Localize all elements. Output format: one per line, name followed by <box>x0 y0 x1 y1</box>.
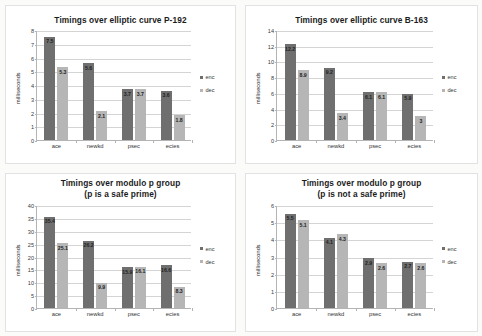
plot-area: 01234565.55.1ace4.14.3newkd2.92.6psec2.7… <box>276 206 433 309</box>
x-axis-tick-mark <box>356 308 357 311</box>
y-axis-tick-mark <box>275 309 277 310</box>
legend-swatch-enc <box>442 76 445 79</box>
bar-enc: 2.9 <box>363 258 374 308</box>
y-axis-tick-label: 25 <box>28 242 34 248</box>
bar-value-label: 2.7 <box>404 263 411 269</box>
bar-value-label: 2.6 <box>417 265 424 271</box>
legend-item-enc[interactable]: enc <box>200 246 215 252</box>
bar-value-label: 5.3 <box>59 69 66 75</box>
x-axis-tick-label: ecies <box>166 311 180 317</box>
x-axis-tick-label: ace <box>52 143 61 149</box>
bar-group: 35.425.1ace <box>37 206 76 308</box>
chart-title-line: Timings over modulo p group <box>246 178 477 189</box>
x-axis-tick-label: psec <box>128 143 140 149</box>
bar-value-label: 5.5 <box>287 215 294 221</box>
y-axis-tick-label: 0 <box>31 306 34 312</box>
bar-value-label: 25.1 <box>58 245 68 251</box>
bar-dec: 2.6 <box>415 263 426 308</box>
x-axis-tick-mark <box>76 140 77 143</box>
bar-dec: 16.1 <box>135 267 146 308</box>
bar-dec: 3 <box>415 116 426 140</box>
bar-dec: 8.3 <box>174 287 185 308</box>
bar-value-label: 6.1 <box>378 94 385 100</box>
legend-item-dec[interactable]: dec <box>200 259 215 265</box>
bar-group: 5.62.1newkd <box>76 31 115 140</box>
chart-title: Timings over elliptic curve P-192 <box>6 15 235 26</box>
y-axis-tick-label: 4 <box>271 107 274 113</box>
chart-legend: encdec <box>442 74 457 100</box>
bar-dec: 3.7 <box>135 89 146 140</box>
x-axis-tick-mark <box>153 140 154 143</box>
bar-group: 9.23.4newkd <box>316 31 355 140</box>
bar-dec: 6.1 <box>376 92 387 140</box>
bar-enc: 16.6 <box>161 265 172 308</box>
legend-label: enc <box>448 74 457 80</box>
bar-dec: 2.1 <box>96 111 107 140</box>
bar-dec: 8.9 <box>298 70 309 140</box>
legend-item-enc[interactable]: enc <box>442 246 457 252</box>
y-axis-tick-label: 8 <box>31 28 34 34</box>
legend-swatch-dec <box>200 260 203 263</box>
legend-item-dec[interactable]: dec <box>442 259 457 265</box>
bar-enc: 3.6 <box>161 91 172 141</box>
x-axis-tick-mark <box>192 308 193 311</box>
x-axis-tick-mark <box>434 308 435 311</box>
y-axis-tick-label: 40 <box>28 203 34 209</box>
x-axis-tick-mark <box>395 140 396 143</box>
x-axis-tick-label: newkd <box>87 311 104 317</box>
x-axis-tick-mark <box>153 308 154 311</box>
x-axis-tick-mark <box>192 140 193 143</box>
bar-enc: 7.5 <box>44 37 55 140</box>
legend-label: dec <box>206 259 215 265</box>
bar-value-label: 2.9 <box>365 260 372 266</box>
y-axis-tick-label: 5 <box>31 69 34 75</box>
y-axis-tick-label: 1 <box>271 289 274 295</box>
x-axis-tick-label: newkd <box>327 143 344 149</box>
y-axis-tick-label: 20 <box>28 255 34 261</box>
bar-value-label: 26.2 <box>84 242 94 248</box>
y-axis-label: milliseconds <box>255 72 261 104</box>
bar-value-label: 15.9 <box>122 269 132 275</box>
y-axis-tick-label: 5 <box>271 220 274 226</box>
chart-title: Timings over modulo p group(p is not a s… <box>246 178 477 199</box>
legend-item-enc[interactable]: enc <box>442 74 457 80</box>
bar-value-label: 8.3 <box>176 288 183 294</box>
x-axis-tick-mark <box>356 140 357 143</box>
chart-title: Timings over modulo p group(p is a safe … <box>6 178 235 199</box>
bar-value-label: 4.1 <box>326 239 333 245</box>
y-axis-tick-label: 15 <box>28 267 34 273</box>
bar-value-label: 5.1 <box>300 222 307 228</box>
bar-group: 4.14.3newkd <box>316 206 355 308</box>
y-axis-tick-label: 35 <box>28 216 34 222</box>
bar-value-label: 5.9 <box>404 95 411 101</box>
x-axis-tick-mark <box>76 308 77 311</box>
legend-item-dec[interactable]: dec <box>200 87 215 93</box>
legend-item-dec[interactable]: dec <box>442 87 457 93</box>
y-axis-tick-label: 4 <box>31 83 34 89</box>
y-axis-tick-label: 12 <box>268 44 274 50</box>
chart-legend: encdec <box>442 246 457 272</box>
x-axis-tick-mark <box>395 308 396 311</box>
y-axis-tick-mark <box>275 141 277 142</box>
legend-label: enc <box>448 246 457 252</box>
y-axis-tick-label: 2 <box>271 272 274 278</box>
legend-item-enc[interactable]: enc <box>200 74 215 80</box>
bar-value-label: 16.1 <box>135 268 145 274</box>
bar-enc: 35.4 <box>44 217 55 308</box>
bar-value-label: 8.9 <box>300 72 307 78</box>
bar-group: 16.68.3ecies <box>153 206 192 308</box>
y-axis-tick-mark <box>35 309 37 310</box>
y-axis-tick-label: 8 <box>271 75 274 81</box>
bar-value-label: 4.3 <box>339 236 346 242</box>
bar-group: 5.55.1ace <box>277 206 316 308</box>
y-axis-tick-label: 6 <box>271 203 274 209</box>
y-axis-tick-label: 6 <box>271 91 274 97</box>
bar-enc: 4.1 <box>324 238 335 308</box>
bar-value-label: 5.6 <box>85 65 92 71</box>
y-axis-tick-label: 0 <box>271 306 274 312</box>
bar-dec: 4.3 <box>337 234 348 308</box>
plot-area: 0123456787.55.3ace5.62.1newkd3.73.7psec3… <box>36 31 191 141</box>
y-axis-tick-label: 3 <box>271 255 274 261</box>
y-axis-label: milliseconds <box>15 72 21 104</box>
bar-dec: 1.8 <box>174 115 185 140</box>
